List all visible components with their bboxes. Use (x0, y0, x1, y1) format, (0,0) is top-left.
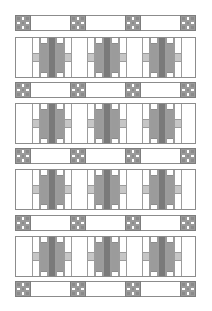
block-strip-center (158, 237, 166, 276)
sashing-row (15, 148, 196, 164)
block-row (15, 236, 196, 277)
block-strip-outer (32, 237, 40, 276)
block-strip-outer (87, 104, 95, 143)
block-strip-outer (142, 38, 150, 77)
nine-patch-block (180, 15, 196, 31)
block-strip-outer (174, 237, 182, 276)
block-strip-mid (150, 104, 158, 143)
block-strip-outer (64, 38, 72, 77)
sashing-row (15, 281, 196, 297)
block-strip-outer (119, 104, 127, 143)
block-strip-center (48, 170, 56, 209)
block-strip-mid (111, 104, 119, 143)
nine-patch-block (70, 148, 86, 164)
nine-patch-block (125, 148, 141, 164)
block-strip-mid (56, 170, 64, 209)
star-block (87, 170, 127, 209)
block-strip-outer (174, 104, 182, 143)
nine-patch-block (125, 281, 141, 297)
nine-patch-block (70, 281, 86, 297)
star-block (87, 104, 127, 143)
star-block (142, 38, 182, 77)
block-strip-outer (87, 170, 95, 209)
nine-patch-block (70, 82, 86, 98)
block-strip-center (103, 104, 111, 143)
block-strip-outer (32, 104, 40, 143)
block-strip-outer (64, 104, 72, 143)
block-strip-mid (40, 237, 48, 276)
sashing-row (15, 15, 196, 31)
block-strip-mid (95, 38, 103, 77)
nine-patch-block (15, 15, 31, 31)
nine-patch-block (15, 281, 31, 297)
block-strip-mid (111, 170, 119, 209)
sashing-row (15, 215, 196, 231)
nine-patch-block (180, 82, 196, 98)
block-strip-mid (150, 38, 158, 77)
nine-patch-block (70, 15, 86, 31)
block-strip-center (103, 237, 111, 276)
block-strip-outer (87, 237, 95, 276)
block-strip-outer (119, 38, 127, 77)
star-block (87, 38, 127, 77)
sashing-row (15, 82, 196, 98)
nine-patch-block (15, 215, 31, 231)
block-strip-outer (142, 170, 150, 209)
block-strip-outer (142, 104, 150, 143)
block-strip-mid (56, 38, 64, 77)
block-strip-mid (166, 170, 174, 209)
block-strip-center (48, 237, 56, 276)
star-block (32, 170, 72, 209)
star-block (32, 104, 72, 143)
block-strip-outer (87, 38, 95, 77)
block-strip-mid (111, 38, 119, 77)
nine-patch-block (180, 215, 196, 231)
quilt-diagram (0, 0, 212, 311)
block-row (15, 37, 196, 78)
block-strip-center (103, 38, 111, 77)
nine-patch-block (15, 148, 31, 164)
block-strip-outer (174, 170, 182, 209)
block-strip-mid (95, 170, 103, 209)
block-strip-outer (64, 170, 72, 209)
star-block (87, 237, 127, 276)
nine-patch-block (180, 148, 196, 164)
nine-patch-block (180, 281, 196, 297)
nine-patch-block (125, 82, 141, 98)
block-strip-center (158, 170, 166, 209)
block-strip-center (158, 104, 166, 143)
block-strip-mid (150, 170, 158, 209)
block-strip-mid (56, 104, 64, 143)
nine-patch-block (70, 215, 86, 231)
block-strip-outer (174, 38, 182, 77)
block-strip-mid (56, 237, 64, 276)
block-strip-mid (95, 104, 103, 143)
block-strip-mid (40, 38, 48, 77)
block-strip-outer (119, 237, 127, 276)
star-block (142, 237, 182, 276)
block-strip-center (103, 170, 111, 209)
nine-patch-block (15, 82, 31, 98)
block-row (15, 103, 196, 144)
block-strip-center (158, 38, 166, 77)
block-strip-outer (142, 237, 150, 276)
star-block (32, 38, 72, 77)
block-strip-mid (166, 237, 174, 276)
block-strip-mid (166, 38, 174, 77)
nine-patch-block (125, 215, 141, 231)
block-row (15, 169, 196, 210)
block-strip-mid (166, 104, 174, 143)
block-strip-outer (32, 170, 40, 209)
block-strip-mid (40, 170, 48, 209)
block-strip-outer (32, 38, 40, 77)
nine-patch-block (125, 15, 141, 31)
block-strip-mid (150, 237, 158, 276)
block-strip-center (48, 104, 56, 143)
block-strip-mid (111, 237, 119, 276)
star-block (32, 237, 72, 276)
block-strip-mid (95, 237, 103, 276)
block-strip-outer (64, 237, 72, 276)
block-strip-mid (40, 104, 48, 143)
star-block (142, 104, 182, 143)
block-strip-center (48, 38, 56, 77)
